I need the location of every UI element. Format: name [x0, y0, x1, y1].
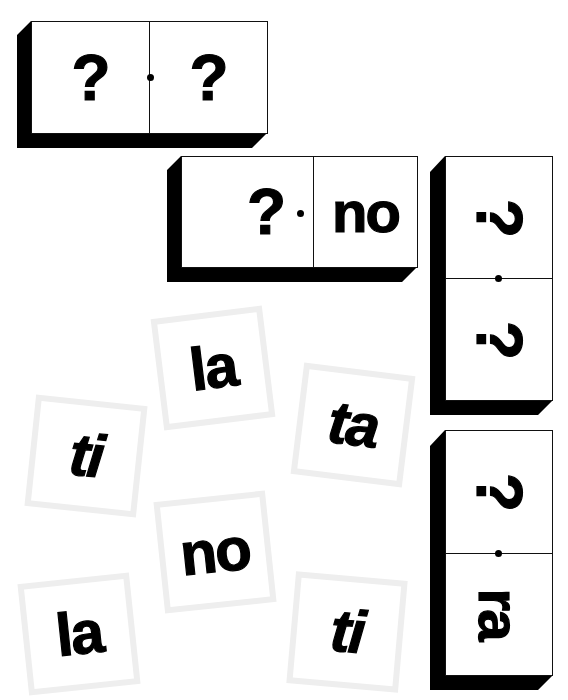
syllable-tile-no[interactable]: no	[153, 490, 276, 613]
domino-slot[interactable]: ?	[446, 157, 552, 278]
center-pip	[147, 74, 154, 81]
syllable-tile-la[interactable]: la	[151, 306, 276, 431]
domino-slot[interactable]: ?	[149, 22, 267, 133]
syllable-text: no	[332, 183, 399, 241]
syllable-tile-ta[interactable]: ta	[291, 363, 416, 488]
center-pip	[495, 275, 502, 282]
syllable-text: la	[53, 602, 105, 666]
question-mark: ?	[71, 46, 109, 110]
syllable-text: ti	[67, 424, 106, 487]
question-mark: ?	[467, 320, 531, 358]
domino-1: ? ?	[16, 20, 269, 150]
question-mark: ?	[467, 473, 531, 511]
domino-3: ? ?	[429, 155, 554, 417]
syllable-text: ta	[325, 392, 381, 458]
domino-slot[interactable]: ?	[32, 22, 149, 133]
center-pip	[297, 210, 304, 217]
syllable-text: no	[177, 519, 252, 586]
question-mark: ?	[247, 180, 285, 244]
domino-4: ? ra	[429, 429, 554, 692]
syllable-tile-ti[interactable]: ti	[286, 571, 407, 692]
question-mark: ?	[189, 46, 227, 110]
domino-2: ? no	[166, 155, 419, 285]
syllable-tile-la[interactable]: la	[17, 572, 140, 695]
question-mark: ?	[467, 198, 531, 236]
syllable-text: ra	[470, 589, 528, 640]
domino-slot[interactable]: ?	[446, 431, 552, 553]
domino-half-fixed: ra	[446, 553, 552, 676]
domino-slot[interactable]: ?	[446, 278, 552, 400]
syllable-tile-ti[interactable]: ti	[24, 394, 147, 517]
domino-slot[interactable]: ?	[182, 157, 313, 267]
game-board: ? ? ? no ?	[0, 0, 568, 700]
syllable-text: ti	[328, 601, 366, 664]
center-pip	[495, 550, 502, 557]
syllable-text: la	[186, 335, 239, 400]
domino-half-fixed: no	[313, 157, 417, 267]
